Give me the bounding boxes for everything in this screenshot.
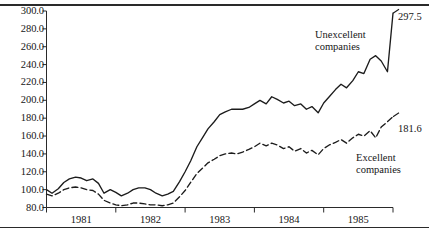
x-axis-ticks <box>47 208 394 213</box>
chart-figure: 80.0100.0120.0140.0160.0180.0200.0220.02… <box>0 0 429 238</box>
y-axis-tick-label: 80.0 <box>0 203 44 214</box>
end-value-label-unexcellent: 297.5 <box>398 12 422 23</box>
y-axis-tick-label: 200.0 <box>0 95 44 106</box>
y-axis-tick-label: 280.0 <box>0 24 44 35</box>
y-axis-tick-label: 240.0 <box>0 60 44 71</box>
y-axis-tick-label: 260.0 <box>0 42 44 53</box>
leader-line-excellent <box>393 113 399 117</box>
y-axis-tick-label: 220.0 <box>0 77 44 88</box>
y-axis-tick-label: 300.0 <box>0 6 44 17</box>
x-axis-tick-label: 1985 <box>328 215 388 226</box>
end-label-leaders <box>393 9 399 117</box>
annotation-line-2: companies <box>356 164 401 176</box>
y-axis-tick-label: 180.0 <box>0 113 44 124</box>
y-axis-tick-label: 120.0 <box>0 167 44 178</box>
y-axis-tick-label: 140.0 <box>0 149 44 160</box>
annotation-line-2: companies <box>315 41 366 53</box>
series-annotation-excellent: Excellent companies <box>356 152 401 175</box>
annotation-line-1: Unexcellent <box>315 29 366 41</box>
y-axis-tick-label: 160.0 <box>0 131 44 142</box>
x-axis-tick-label: 1984 <box>259 215 319 226</box>
x-axis-tick-label: 1983 <box>190 215 250 226</box>
y-axis-tick-label: 100.0 <box>0 185 44 196</box>
x-axis-tick-label: 1982 <box>120 215 180 226</box>
annotation-line-1: Excellent <box>356 152 401 164</box>
series-annotation-unexcellent: Unexcellent companies <box>315 29 366 52</box>
end-value-label-excellent: 181.6 <box>398 124 422 135</box>
series-line-dashed <box>47 117 394 206</box>
x-axis-tick-label: 1981 <box>51 215 111 226</box>
